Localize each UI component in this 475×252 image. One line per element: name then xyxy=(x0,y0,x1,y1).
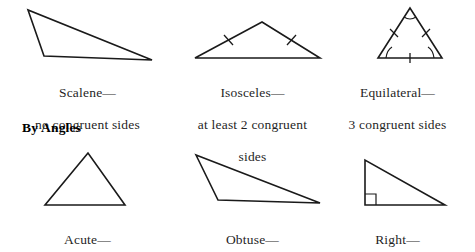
angle-arc-icon xyxy=(404,17,416,19)
right-triangle-shape xyxy=(0,145,475,210)
caption-acute-line1: Acute— xyxy=(0,232,175,248)
figure-right xyxy=(0,145,475,210)
section-heading-by-angles: By Angles xyxy=(22,120,81,136)
congruence-tick-icon xyxy=(422,29,430,37)
right-angle-marker-icon xyxy=(365,194,376,205)
caption-right-line1: Right— xyxy=(320,232,475,248)
caption-isosceles-line1: Isosceles— xyxy=(165,85,340,101)
angle-arc-icon xyxy=(428,47,434,58)
caption-equilateral: Equilateral— 3 congruent sides xyxy=(320,69,475,149)
caption-acute: Acute— 3 acute angles xyxy=(0,216,175,252)
caption-scalene-line1: Scalene— xyxy=(0,85,175,101)
equilateral-triangle-outline xyxy=(378,8,442,58)
congruence-tick-icon xyxy=(390,29,398,37)
caption-equilateral-line2: 3 congruent sides xyxy=(320,117,475,133)
caption-scalene: Scalene— no congruent sides xyxy=(0,69,175,149)
caption-isosceles-line2: at least 2 congruent xyxy=(165,117,340,133)
caption-equilateral-line1: Equilateral— xyxy=(320,85,475,101)
caption-obtuse-line1: Obtuse— xyxy=(165,232,340,248)
right-triangle-outline xyxy=(365,160,445,205)
equilateral-triangle-shape xyxy=(0,0,475,70)
caption-obtuse: Obtuse— 1 obtuse angle xyxy=(165,216,340,252)
triangle-classification-diagram: Scalene— no congruent sides Isosceles— a… xyxy=(0,0,475,252)
figure-equilateral xyxy=(0,0,475,70)
caption-right: Right— 1 right angle xyxy=(320,216,475,252)
angle-arc-icon xyxy=(386,47,392,58)
